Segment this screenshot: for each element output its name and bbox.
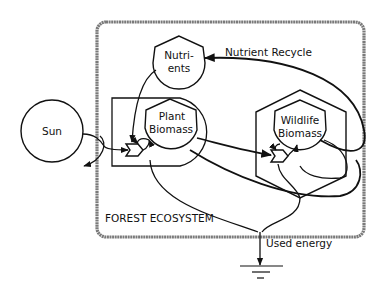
sun-label: Sun (42, 125, 62, 137)
forest-ecosystem-diagram: FOREST ECOSYSTEM Sun Nutri- ents Plant B… (0, 0, 382, 297)
used-energy-label: Used energy (266, 237, 332, 249)
sun-to-plant-flow (83, 134, 128, 150)
nutrients-label-line1: Nutri- (164, 49, 194, 61)
nutrient-recycle-label: Nutrient Recycle (225, 46, 312, 58)
heat-sink-icon (240, 266, 283, 278)
wildlife-biomass-storage: Wildlife Biomass (274, 100, 326, 150)
nutrients-label-line2: ents (168, 62, 191, 74)
plant-interaction-gate-icon (126, 144, 143, 156)
wildlife-biomass-label-line1: Wildlife (281, 114, 320, 126)
wildlife-used-energy-flow (262, 198, 300, 232)
nutrients-storage: Nutri- ents (153, 36, 205, 89)
sun-source: Sun (21, 100, 83, 162)
plant-biomass-label-line2: Biomass (149, 123, 193, 135)
wildlife-biomass-label-line2: Biomass (278, 127, 322, 139)
reflected-sunlight-flow (84, 136, 104, 166)
system-label: FOREST ECOSYSTEM (105, 212, 214, 224)
plant-biomass-storage: Plant Biomass (145, 99, 197, 149)
plant-gate-to-storage-flow (143, 140, 149, 150)
plant-biomass-label-line1: Plant (159, 110, 185, 122)
plant-feedback-flow (137, 139, 149, 144)
